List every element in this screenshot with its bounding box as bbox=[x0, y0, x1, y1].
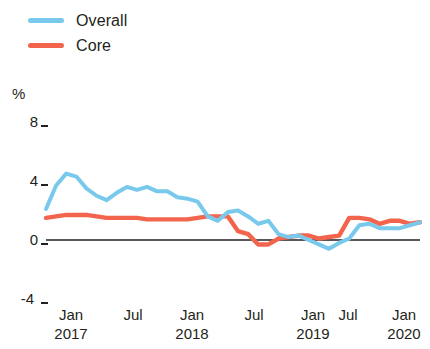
series-line-overall bbox=[46, 174, 420, 249]
x-tick-jan-2017: Jan 2017 bbox=[44, 305, 98, 343]
x-tick-year-4: 2019 bbox=[286, 324, 340, 343]
x-tick-year-0: 2017 bbox=[44, 324, 98, 343]
x-tick-year-2: 2018 bbox=[165, 324, 219, 343]
inflation-line-chart: Overall Core % 8 4 0 -4 Jan 2017 Ju bbox=[0, 0, 430, 349]
x-tick-jan-2018: Jan 2018 bbox=[165, 305, 219, 343]
x-tick-month-1: Jul bbox=[123, 306, 142, 323]
x-tick-jul-2017: Jul bbox=[106, 305, 160, 324]
x-tick-jan-2020: Jan 2020 bbox=[377, 305, 430, 343]
x-tick-month-0: Jan bbox=[59, 306, 83, 323]
x-tick-month-3: Jul bbox=[244, 306, 263, 323]
chart-svg bbox=[0, 0, 430, 349]
x-tick-year-6: 2020 bbox=[377, 324, 430, 343]
x-tick-month-5: Jul bbox=[338, 306, 357, 323]
x-tick-month-6: Jan bbox=[392, 306, 416, 323]
x-tick-jul-2019: Jul bbox=[321, 305, 375, 324]
plot-area: 8 4 0 -4 Jan 2017 Jul Jan 2018 Jul bbox=[0, 0, 430, 349]
x-tick-jul-2018: Jul bbox=[227, 305, 281, 324]
x-tick-month-2: Jan bbox=[180, 306, 204, 323]
